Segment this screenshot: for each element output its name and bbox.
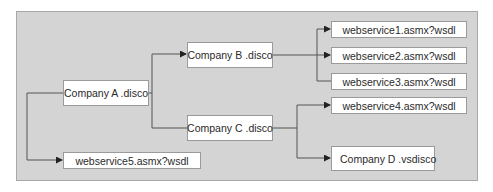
node-company-d: Company D .vsdisco bbox=[331, 146, 435, 171]
node-webservice3: webservice3.asmx?wsdl bbox=[331, 73, 467, 90]
node-company-b: Company B .disco bbox=[187, 42, 273, 68]
node-company-c: Company C .disco bbox=[187, 115, 273, 141]
node-company-a: Company A .disco bbox=[63, 80, 149, 106]
node-webservice2: webservice2.asmx?wsdl bbox=[331, 47, 467, 64]
node-webservice4: webservice4.asmx?wsdl bbox=[331, 97, 467, 114]
node-webservice5: webservice5.asmx?wsdl bbox=[63, 152, 201, 169]
node-webservice1: webservice1.asmx?wsdl bbox=[331, 21, 467, 38]
